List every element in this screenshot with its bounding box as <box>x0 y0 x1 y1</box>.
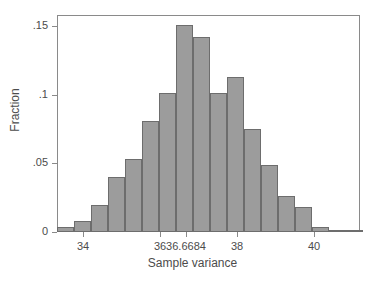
histogram-bar <box>57 227 74 232</box>
y-tick-label: 0 <box>42 226 48 237</box>
x-axis-label: Sample variance <box>0 256 385 270</box>
histogram-bar <box>176 25 193 232</box>
histogram-bar <box>295 207 312 232</box>
x-tick-mark <box>83 232 84 237</box>
y-tick-mark <box>52 26 57 27</box>
histogram-bar <box>142 121 159 232</box>
histogram-bar <box>125 159 142 232</box>
histogram-bar <box>329 230 346 232</box>
histogram-bar <box>159 93 176 232</box>
x-tick-mark <box>160 232 161 237</box>
histogram-bar <box>74 221 91 232</box>
histogram-bar <box>210 93 227 232</box>
y-tick-label: .15 <box>33 20 48 31</box>
histogram-bar <box>244 129 261 232</box>
x-tick-mark <box>314 232 315 237</box>
x-tick-label: 34 <box>43 240 123 252</box>
plot-area <box>57 15 360 232</box>
histogram-bar <box>261 165 278 232</box>
y-tick-label: .1 <box>39 89 48 100</box>
x-tick-mark <box>186 232 187 237</box>
y-tick-mark <box>52 95 57 96</box>
histogram-bar <box>346 230 363 232</box>
histogram-bar <box>278 196 295 232</box>
histogram-bar <box>108 177 125 232</box>
x-tick-label: 38 <box>197 240 277 252</box>
histogram-figure: 0.05.1.15 343636.66843840 Sample varianc… <box>0 0 385 282</box>
y-tick-mark <box>52 232 57 233</box>
histogram-bar <box>91 205 108 232</box>
x-tick-mark <box>237 232 238 237</box>
histogram-bar <box>193 37 210 232</box>
histogram-bar <box>227 77 244 232</box>
y-axis-label: Fraction <box>8 60 22 160</box>
x-tick-label: 40 <box>274 240 354 252</box>
y-tick-mark <box>52 163 57 164</box>
y-tick-label: .05 <box>33 157 48 168</box>
